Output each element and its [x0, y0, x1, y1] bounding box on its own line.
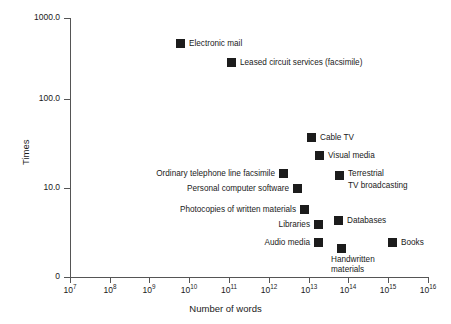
x-tick-mark — [309, 277, 310, 283]
data-point-label: TV broadcasting — [348, 181, 408, 191]
x-tick-label-1e10: 1010 — [169, 286, 209, 295]
data-point-marker[interactable] — [293, 184, 302, 193]
data-point-marker[interactable] — [337, 244, 346, 253]
x-axis-title: Number of words — [0, 303, 451, 314]
x-tick-exponent: 10 — [190, 283, 197, 290]
data-point-marker[interactable] — [314, 238, 323, 247]
y-tick-label-100: 100.0 — [4, 94, 60, 103]
data-point-marker[interactable] — [279, 169, 288, 178]
x-tick-mark — [269, 277, 270, 283]
x-tick-exponent: 15 — [389, 283, 396, 290]
x-tick-label-1e16: 1016 — [408, 286, 448, 295]
y-tick-mark — [64, 188, 70, 189]
scatter-chart: 1000.0 100.0 10.0 0 Times 107 108 109 10… — [0, 0, 451, 324]
data-point-marker[interactable] — [315, 151, 324, 160]
data-point-label: Personal computer software — [160, 184, 289, 194]
x-tick-base: 10 — [420, 285, 429, 295]
x-tick-exponent: 14 — [349, 283, 356, 290]
data-point-marker[interactable] — [176, 39, 185, 48]
x-tick-base: 10 — [104, 285, 113, 295]
x-tick-mark — [229, 277, 230, 283]
x-tick-mark — [70, 277, 71, 283]
data-point-label: Ordinary telephone line facsimile — [144, 169, 275, 179]
data-point-marker[interactable] — [314, 220, 323, 229]
x-axis-line — [70, 277, 429, 278]
x-tick-label-1e9: 109 — [129, 286, 169, 295]
x-tick-exponent: 13 — [310, 283, 317, 290]
x-tick-mark — [428, 277, 429, 283]
x-tick-exponent: 8 — [113, 283, 117, 290]
data-point-label: Handwritten — [331, 255, 375, 265]
x-tick-base: 10 — [301, 285, 310, 295]
y-tick-mark — [64, 18, 70, 19]
data-point-label: Photocopies of written materials — [166, 205, 296, 215]
x-tick-base: 10 — [340, 285, 349, 295]
x-tick-exponent: 7 — [73, 283, 77, 290]
data-point-label: Audio media — [250, 238, 310, 248]
x-tick-label-1e13: 1013 — [289, 286, 329, 295]
x-tick-mark — [388, 277, 389, 283]
y-tick-label-0: 0 — [4, 272, 60, 281]
y-axis-line — [70, 18, 71, 278]
x-tick-label-1e7: 107 — [50, 286, 90, 295]
x-tick-label-1e15: 1015 — [368, 286, 408, 295]
x-tick-mark — [189, 277, 190, 283]
data-point-label: Libraries — [262, 220, 310, 230]
x-tick-exponent: 16 — [429, 283, 436, 290]
y-tick-mark — [64, 99, 70, 100]
data-point-label: Terrestrial — [348, 169, 384, 179]
x-tick-base: 10 — [181, 285, 190, 295]
x-tick-mark — [348, 277, 349, 283]
x-tick-base: 10 — [380, 285, 389, 295]
y-axis-title: Times — [20, 139, 31, 165]
data-point-label: Databases — [347, 216, 386, 226]
y-tick-label-10: 10.0 — [4, 183, 60, 192]
data-point-marker[interactable] — [388, 238, 397, 247]
x-tick-label-1e12: 1012 — [249, 286, 289, 295]
data-point-label: Electronic mail — [189, 39, 242, 49]
x-tick-base: 10 — [64, 285, 73, 295]
data-point-label: Leased circuit services (facsimile) — [240, 58, 362, 68]
data-point-label: Books — [401, 238, 424, 248]
x-tick-exponent: 11 — [230, 283, 237, 290]
x-tick-label-1e11: 1011 — [209, 286, 249, 295]
data-point-marker[interactable] — [227, 58, 236, 67]
data-point-marker[interactable] — [335, 171, 344, 180]
x-tick-label-1e8: 108 — [90, 286, 130, 295]
x-tick-base: 10 — [143, 285, 152, 295]
data-point-marker[interactable] — [307, 133, 316, 142]
data-point-marker[interactable] — [334, 216, 343, 225]
data-point-label: materials — [331, 265, 364, 275]
data-point-marker[interactable] — [300, 205, 309, 214]
x-tick-exponent: 12 — [270, 283, 277, 290]
x-tick-mark — [110, 277, 111, 283]
y-tick-label-1000: 1000.0 — [4, 13, 60, 22]
x-tick-mark — [149, 277, 150, 283]
x-tick-exponent: 9 — [152, 283, 156, 290]
x-tick-label-1e14: 1014 — [328, 286, 368, 295]
data-point-label: Cable TV — [320, 133, 354, 143]
x-tick-base: 10 — [261, 285, 270, 295]
data-point-label: Visual media — [328, 151, 375, 161]
